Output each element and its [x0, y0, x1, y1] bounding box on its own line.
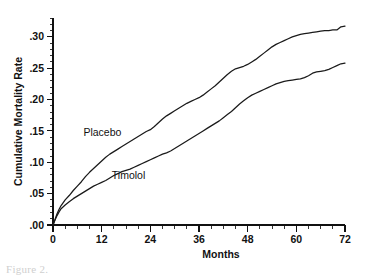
- series-annotations: PlaceboTimolol: [83, 126, 145, 181]
- x-axis: 0122436486072: [50, 225, 351, 245]
- x-tick-label: 0: [50, 233, 56, 245]
- x-tick-label: 24: [144, 233, 156, 245]
- axis-titles: MonthsCumulative Mortality Rate: [12, 57, 240, 260]
- x-tick-label: 36: [193, 233, 205, 245]
- y-tick-label: .20: [29, 93, 44, 105]
- y-tick-label: .05: [29, 187, 44, 199]
- x-tick-label: 72: [339, 233, 351, 245]
- y-axis: .00.05.10.15.20.25.30: [29, 18, 53, 231]
- y-tick-label: .10: [29, 156, 44, 168]
- x-tick-label: 48: [242, 233, 254, 245]
- y-axis-title: Cumulative Mortality Rate: [12, 57, 24, 186]
- x-tick-label: 60: [290, 233, 302, 245]
- series-line-timolol: [53, 63, 345, 225]
- y-tick-label: .15: [29, 125, 44, 137]
- y-tick-label: .00: [29, 219, 44, 231]
- y-tick-label: .30: [29, 30, 44, 42]
- annotation-timolol: Timolol: [112, 169, 145, 181]
- x-tick-label: 12: [96, 233, 108, 245]
- annotation-placebo: Placebo: [83, 126, 121, 138]
- figure-caption: Figure 2.: [6, 263, 48, 275]
- y-tick-label: .25: [29, 62, 44, 74]
- x-axis-title: Months: [202, 248, 239, 260]
